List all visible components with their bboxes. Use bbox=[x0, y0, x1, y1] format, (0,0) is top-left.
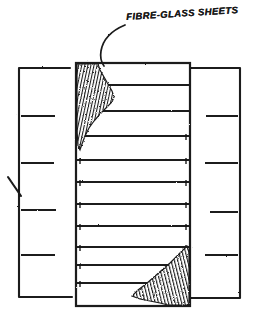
hatched-wedges bbox=[77, 64, 189, 305]
hatched-wedge-top-left bbox=[77, 64, 114, 150]
fibre-glass-leader-line bbox=[101, 25, 125, 66]
right-panel-ticks bbox=[205, 116, 238, 255]
left-panel-ticks bbox=[21, 116, 56, 255]
right-panel-outline bbox=[188, 68, 240, 298]
sketch-canvas bbox=[0, 0, 259, 335]
annotation-leader bbox=[101, 25, 125, 66]
left-panel-outline bbox=[19, 68, 72, 297]
diagram-root: FIBRE-GLASS SHEETS bbox=[0, 0, 259, 335]
right-panel bbox=[188, 68, 240, 298]
left-panel bbox=[19, 68, 72, 297]
hatched-wedge-bottom-right bbox=[132, 246, 189, 305]
